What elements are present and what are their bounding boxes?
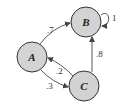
node-b: B — [71, 7, 101, 37]
node-a: A — [17, 42, 47, 72]
edge-label-c-b: .8 — [96, 49, 103, 59]
edge-label-c-a: .2 — [56, 66, 63, 76]
node-c-label: C — [80, 80, 88, 92]
edge-a-to-b — [40, 23, 70, 44]
markov-diagram: .7 1 .8 .2 .3 A B C — [0, 0, 120, 106]
node-c: C — [69, 71, 99, 101]
node-a-label: A — [27, 51, 35, 63]
edge-label-a-b: .7 — [47, 25, 54, 35]
edge-label-b-b: 1 — [112, 13, 117, 23]
node-b-label: B — [81, 16, 89, 28]
edge-b-to-b — [101, 13, 109, 26]
edge-label-a-c: .3 — [46, 81, 53, 91]
